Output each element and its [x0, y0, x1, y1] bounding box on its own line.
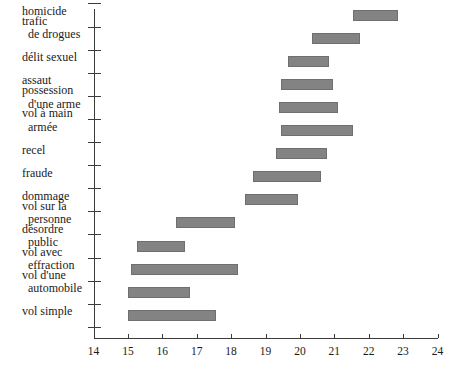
bar — [281, 79, 333, 90]
x-axis-tick — [369, 334, 370, 338]
x-axis-tick-label: 23 — [386, 345, 420, 357]
bar — [276, 148, 328, 159]
x-axis-tick — [300, 334, 301, 338]
x-axis-tick-label: 14 — [77, 345, 111, 357]
bar — [245, 194, 298, 205]
bar — [137, 241, 185, 252]
x-axis-tick — [438, 334, 439, 338]
x-axis-tick — [197, 334, 198, 338]
y-axis-tick — [88, 3, 101, 4]
category-label: fraude — [0, 167, 82, 180]
category-label: vol à main armée — [0, 107, 82, 134]
bar — [128, 310, 216, 321]
plot-area: homicidetrafic de droguesdélit sexuelass… — [0, 0, 464, 370]
x-axis-tick — [334, 334, 335, 338]
x-axis-tick-label: 17 — [180, 345, 214, 357]
x-axis-tick — [231, 334, 232, 338]
x-axis-tick-label: 16 — [145, 345, 179, 357]
x-axis-tick-label: 24 — [421, 345, 455, 357]
category-label: délit sexuel — [0, 51, 82, 64]
x-axis-spine — [94, 338, 438, 339]
bar — [312, 33, 360, 44]
y-axis-tick — [88, 258, 101, 259]
y-axis-spine — [94, 9, 95, 338]
y-axis-tick — [88, 119, 101, 120]
x-axis-tick — [266, 334, 267, 338]
x-axis-tick-label: 22 — [352, 345, 386, 357]
x-axis-tick — [403, 334, 404, 338]
category-label: vol simple — [0, 305, 82, 318]
bar — [131, 264, 238, 275]
x-axis-tick-label: 18 — [214, 345, 248, 357]
y-axis-tick — [88, 304, 101, 305]
x-axis-tick-label: 20 — [283, 345, 317, 357]
bar — [176, 217, 234, 228]
x-axis-tick-label: 19 — [249, 345, 283, 357]
y-axis-tick — [88, 27, 101, 28]
y-axis-tick — [88, 50, 101, 51]
x-axis-tick-label: 15 — [111, 345, 145, 357]
y-axis-tick — [88, 73, 101, 74]
y-axis-tick — [88, 234, 101, 235]
category-label: recel — [0, 144, 82, 157]
category-label: vol d'une automobile — [0, 269, 82, 296]
x-axis-tick — [162, 334, 163, 338]
y-axis-tick — [88, 327, 101, 328]
bar — [253, 171, 320, 182]
x-axis-tick-label: 21 — [317, 345, 351, 357]
bar — [281, 125, 353, 136]
y-axis-tick — [88, 281, 101, 282]
bar — [279, 102, 337, 113]
crime-age-range-chart: homicidetrafic de droguesdélit sexuelass… — [0, 0, 464, 370]
y-axis-tick — [88, 142, 101, 143]
bar — [288, 56, 329, 67]
y-axis-tick — [88, 96, 101, 97]
bar — [353, 10, 398, 21]
category-label: trafic de drogues — [0, 15, 82, 42]
x-axis-tick — [128, 334, 129, 338]
y-axis-tick — [88, 211, 101, 212]
bar — [128, 287, 190, 298]
x-axis-tick — [94, 334, 95, 338]
y-axis-tick — [88, 188, 101, 189]
y-axis-tick — [88, 165, 101, 166]
